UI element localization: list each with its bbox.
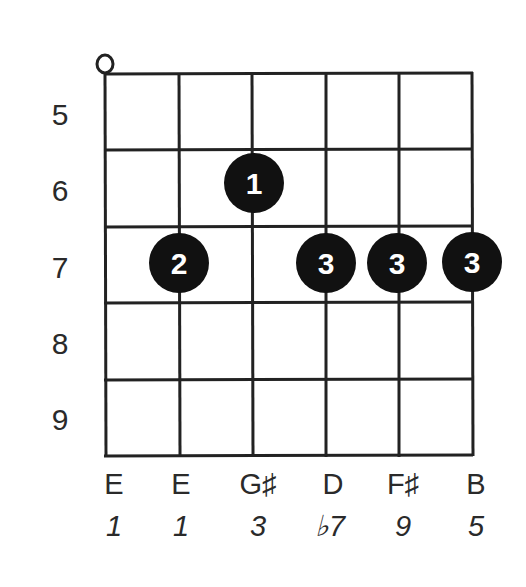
string-line xyxy=(252,73,253,457)
note-names: E E G♯ D F♯ B xyxy=(104,468,485,500)
fret-line xyxy=(104,226,473,227)
finger-number: 3 xyxy=(464,246,481,279)
finger-number: 3 xyxy=(389,247,406,280)
fret-line xyxy=(104,73,473,74)
interval-label: 9 xyxy=(395,510,411,542)
finger-number: 2 xyxy=(171,247,188,280)
interval-label: 5 xyxy=(468,510,485,542)
interval-label: 1 xyxy=(106,510,122,542)
note-name: E xyxy=(171,468,190,500)
interval-labels: 1 1 3 ♭7 9 5 xyxy=(106,510,485,542)
fret-number: 6 xyxy=(52,174,69,207)
note-name: G♯ xyxy=(239,468,276,500)
fret-number: 7 xyxy=(52,251,69,284)
finger-dot-3-d-string: 3 xyxy=(296,233,356,293)
fret-line xyxy=(104,149,473,150)
fret-line xyxy=(104,379,473,380)
finger-number: 3 xyxy=(318,247,335,280)
interval-label: ♭7 xyxy=(315,510,347,542)
finger-dot-1: 1 xyxy=(224,153,284,213)
finger-dot-3-fsharp-string: 3 xyxy=(367,233,427,293)
fret-number: 5 xyxy=(52,98,69,131)
note-name: F♯ xyxy=(387,468,419,500)
interval-label: 1 xyxy=(173,510,189,542)
fret-line xyxy=(104,302,473,303)
note-name: E xyxy=(104,468,123,500)
fret-number: 8 xyxy=(52,327,69,360)
finger-dot-2: 2 xyxy=(149,233,209,293)
note-name: D xyxy=(323,468,344,500)
interval-label: 3 xyxy=(250,510,266,542)
finger-number: 1 xyxy=(246,167,263,200)
fret-number: 9 xyxy=(52,403,69,436)
finger-dot-3-b-string: 3 xyxy=(442,232,502,292)
string-line xyxy=(105,73,106,457)
fret-numbers: 5 6 7 8 9 xyxy=(52,98,69,436)
open-string-marker xyxy=(97,55,113,73)
chord-diagram: 5 6 7 8 9 1 2 3 3 3 E E G♯ D F♯ B 1 1 3 … xyxy=(0,0,526,587)
note-name: B xyxy=(466,468,485,500)
fret-line xyxy=(104,455,473,456)
